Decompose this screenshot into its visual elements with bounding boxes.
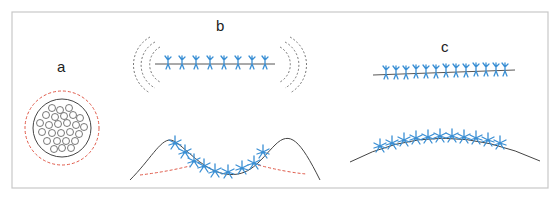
diagram-canvas xyxy=(0,0,560,200)
panel-label-b: b xyxy=(216,17,224,34)
panel-label-a: a xyxy=(57,58,65,75)
panel-label-c: c xyxy=(441,38,449,55)
panel-a-graphic xyxy=(25,91,99,165)
panel-c-arched-suture xyxy=(350,129,540,162)
figure-frame xyxy=(12,12,548,188)
panel-b-curved-suture xyxy=(130,136,320,180)
panel-c-straight-suture xyxy=(373,63,515,79)
panel-b-straight-suture xyxy=(133,37,306,93)
figure: a b c xyxy=(0,0,560,200)
